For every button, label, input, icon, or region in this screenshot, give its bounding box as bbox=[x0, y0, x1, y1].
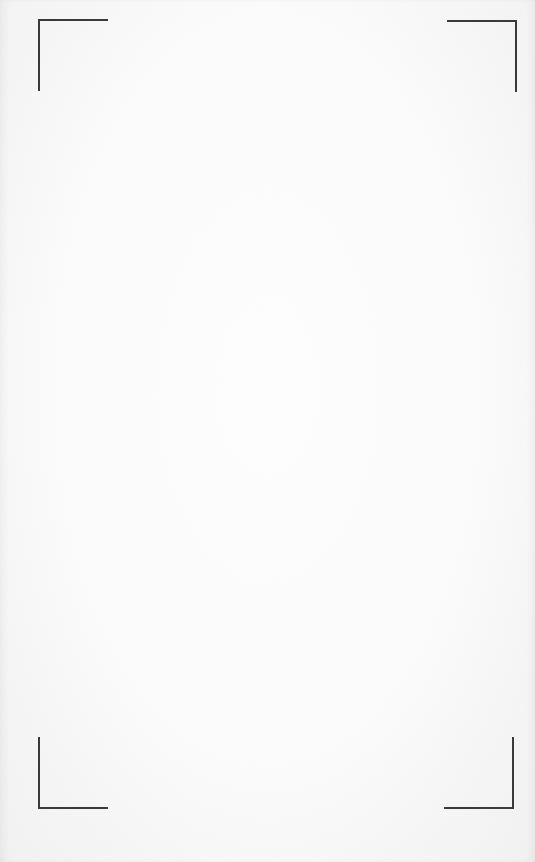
crop-mark-bottom-right-icon bbox=[444, 737, 514, 809]
crop-mark-bottom-left-icon bbox=[38, 737, 108, 809]
crop-mark-top-right-icon bbox=[447, 20, 517, 92]
crop-mark-top-left-icon bbox=[38, 19, 108, 91]
blank-page bbox=[0, 0, 535, 862]
empty-content-area bbox=[40, 21, 516, 809]
